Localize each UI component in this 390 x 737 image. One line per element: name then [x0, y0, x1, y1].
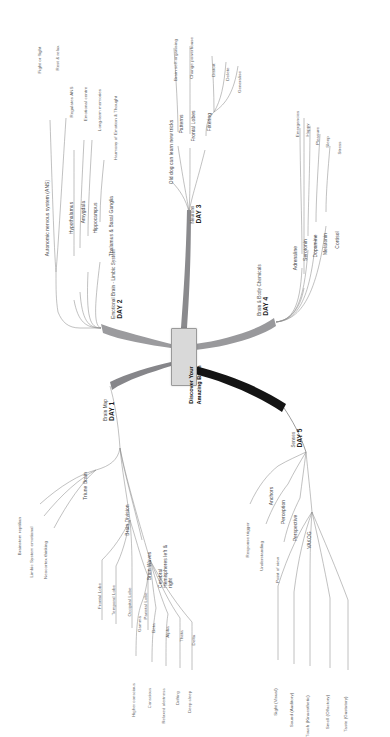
leaf-generalise[interactable]: Generalise — [238, 71, 243, 93]
node-vakog[interactable]: VAKOG — [307, 531, 312, 549]
leaf-touch-kinaesthetic[interactable]: Touch (Kinaesthetic) — [306, 695, 311, 737]
trunk-day1 — [110, 362, 171, 390]
leaf-change-powerhouse[interactable]: Change powerhouse — [190, 37, 195, 79]
node-hypothalamus[interactable]: Hypothalamus — [69, 202, 74, 234]
leaf-drifting[interactable]: Drifting — [176, 691, 180, 705]
leaf-temporal-lobe[interactable]: Temporal Lobe — [112, 585, 117, 615]
leaf-point-of-view[interactable]: Point of view — [276, 557, 281, 583]
node-perspective[interactable]: Perspective — [293, 515, 298, 542]
node-serotonin[interactable]: Serotonin — [303, 239, 308, 261]
leaf-relaxed-alertness[interactable]: Relaxed alertness — [162, 688, 166, 723]
node-delta[interactable]: Delta — [192, 635, 197, 646]
central-node-label: Discover Your Amazing Brain — [187, 365, 204, 404]
node-adrenaline[interactable]: Adrenaline — [293, 246, 298, 270]
leaf-sound-auditory[interactable]: Sound (Auditory) — [290, 693, 295, 728]
leaf-taste-gustatory[interactable]: Taste (Gustatory) — [344, 696, 349, 731]
node-old-dog-new-tricks[interactable]: Old dog can learn new tricks — [169, 120, 174, 185]
node-beta[interactable]: Beta — [152, 623, 157, 632]
leaf-response-trigger[interactable]: Response trigger — [246, 522, 251, 557]
node-amygdala[interactable]: Amygdala — [81, 201, 86, 224]
node-ans[interactable]: Autonomic nervous system (ANS) — [45, 180, 50, 256]
node-theta[interactable]: Theta — [180, 630, 185, 642]
trunk-day2 — [101, 324, 171, 348]
node-hippocampus[interactable]: Hippocampus — [93, 202, 98, 233]
trunk-day5 — [195, 366, 286, 412]
leaf-regulates-ans[interactable]: Regulates ANS — [70, 86, 75, 117]
node-melatonin[interactable]: Melatonin — [323, 233, 328, 255]
leaf-neocortex-thinking[interactable]: Neocortex thinking — [44, 541, 49, 579]
leaf-conscious[interactable]: Conscious — [148, 688, 152, 708]
node-gamma[interactable]: Gamma — [138, 616, 143, 632]
node-dopamine[interactable]: Dopamine — [313, 234, 318, 257]
node-filtering[interactable]: Filtering — [207, 113, 212, 131]
branch-label-day4[interactable]: Brain & Body Chemicals DAY 4 — [258, 264, 270, 316]
node-patterns[interactable]: Patterns — [179, 114, 184, 133]
leaf-rest-relax[interactable]: Rest & relax — [56, 45, 61, 70]
trunk-day4 — [195, 318, 276, 350]
leaf-deep-sleep[interactable]: Deep sleep — [188, 691, 192, 713]
node-cortisol[interactable]: Cortisol — [335, 231, 340, 248]
branch-label-day2[interactable]: Emotional Brain - Limbic System DAY 2 — [112, 249, 124, 318]
node-cerebral-hemispheres[interactable]: Cerebral Hemispheres left & right — [158, 544, 173, 588]
node-thalamus-basal-ganglia[interactable]: Thalamus & Basal Ganglia — [109, 196, 114, 256]
branch-label-day3[interactable]: Neurons DAY 3 — [191, 204, 203, 223]
leaf-stress[interactable]: Stress — [338, 141, 343, 154]
node-brain-division[interactable]: Brain Division — [125, 504, 130, 535]
leaf-sight-visual[interactable]: Sight (Visual) — [274, 688, 279, 715]
leaf-emotional-centre[interactable]: Emotional centre — [84, 87, 89, 122]
leaf-limbic-system-emotional[interactable]: Limbic System emotional — [30, 526, 35, 577]
leaf-harmony-emotion-thought[interactable]: Harmony of Emotion & Thought — [114, 96, 119, 160]
leaf-frontal-lobe[interactable]: Frontal Lobe — [98, 583, 103, 609]
leaf-pleasure[interactable]: Pleasure — [316, 127, 321, 145]
leaf-distort[interactable]: Distort — [212, 63, 217, 76]
node-brain-waves[interactable]: Brain Waves — [147, 552, 152, 581]
leaf-brain-self-organising[interactable]: Brain self-organising — [174, 39, 179, 81]
leaf-fight-or-flight[interactable]: Fight or flight — [38, 47, 43, 74]
branch-label-day5[interactable]: Senses DAY 5 — [292, 428, 304, 447]
leaf-occipital-lobe[interactable]: Occipital Lobe — [128, 587, 133, 616]
leaf-long-term-memories[interactable]: Long-term memories — [98, 89, 103, 131]
leaf-higher-conscious[interactable]: Higher conscious — [132, 683, 136, 717]
leaf-emergencies[interactable]: Emergencies — [296, 111, 301, 138]
leaf-smell-olfactory[interactable]: Smell (Olfactory) — [326, 695, 331, 729]
leaf-brainstem-reptilian[interactable]: Brainstem reptilian — [18, 517, 23, 555]
trunk-day3 — [181, 210, 191, 328]
node-triune-brain[interactable]: Triune Brain — [83, 472, 88, 500]
node-anchors[interactable]: Anchors — [269, 487, 274, 506]
leaf-understanding[interactable]: Understanding — [260, 541, 265, 571]
node-perception[interactable]: Perception — [281, 500, 286, 524]
leaf-sleep[interactable]: Sleep — [326, 136, 331, 148]
branch-label-day1[interactable]: Brain Map DAY 1 — [104, 399, 116, 421]
leaf-parietal-lobe[interactable]: Parietal Lobe — [144, 592, 149, 619]
central-node[interactable]: Discover Your Amazing Brain — [171, 328, 197, 386]
leaf-delete[interactable]: Delete — [226, 67, 231, 80]
leaf-happy[interactable]: Happy — [306, 123, 311, 136]
node-frontal-lobes[interactable]: Frontal Lobes — [191, 110, 196, 141]
node-alpha[interactable]: Alpha — [166, 626, 171, 638]
